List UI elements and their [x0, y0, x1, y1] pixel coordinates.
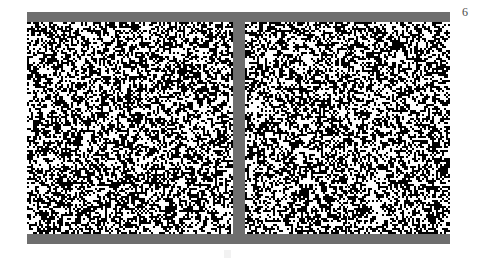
scan-artifact-mark: [224, 250, 231, 258]
right-noise-panel: [245, 22, 450, 234]
figure-random-dot-stereogram: [27, 12, 450, 244]
right-noise-canvas: [245, 22, 450, 234]
page-number: 6: [462, 5, 468, 19]
scanned-page: 6: [0, 0, 478, 262]
left-noise-panel: [27, 22, 233, 234]
figure-bottom-bar: [27, 234, 450, 244]
figure-center-divider: [233, 12, 245, 244]
left-noise-canvas: [27, 22, 233, 234]
